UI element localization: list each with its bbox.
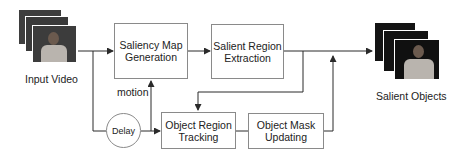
person-body (404, 59, 434, 80)
box-label-line: Generation (119, 51, 182, 63)
salient-objects-label: Salient Objects (376, 90, 447, 102)
saliency-map-generation-box: Saliency MapGeneration (114, 23, 188, 79)
box-label-line: Tracking (165, 131, 232, 143)
box-label-line: Saliency Map (119, 39, 182, 51)
input-video-label: Input Video (25, 73, 78, 85)
input-frame-3 (32, 25, 77, 63)
motion-label: motion (117, 86, 149, 98)
box-label-line: Object Mask (257, 119, 315, 131)
object-mask-updating-box: Object MaskUpdating (248, 113, 324, 149)
person-head (413, 45, 424, 58)
person-body (41, 45, 67, 63)
box-label-line: Salient Region (213, 40, 281, 52)
delay-node: Delay (106, 113, 141, 148)
diagram-canvas: Input Video Saliency MapGeneration Salie… (0, 0, 461, 156)
box-label-line: Object Region (165, 119, 232, 131)
person-head (48, 32, 59, 45)
box-label-line: Updating (257, 131, 315, 143)
output-frame-3 (394, 39, 440, 80)
box-label-line: Extraction (213, 52, 281, 64)
delay-label: Delay (112, 126, 135, 136)
salient-region-extraction-box: Salient RegionExtraction (211, 24, 284, 79)
object-region-tracking-box: Object RegionTracking (161, 112, 236, 149)
